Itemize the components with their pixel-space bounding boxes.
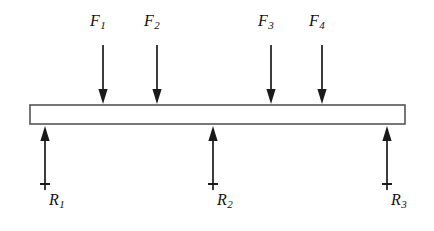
reaction-label-subscript-R3: 3 [401, 198, 407, 210]
reaction-arrow-R2 [208, 126, 218, 190]
reaction-arrow-R1 [40, 126, 50, 190]
beam-body [30, 105, 405, 124]
load-label-base-F2: F [144, 12, 154, 29]
load-arrow-head-F4 [317, 89, 326, 104]
reaction-arrow-group [40, 126, 392, 190]
load-label-base-F3: F [258, 12, 268, 29]
load-label-base-F1: F [90, 12, 100, 29]
reaction-label-R3: R3 [391, 192, 406, 208]
load-label-subscript-F3: 3 [268, 19, 274, 31]
load-label-F1: F1 [90, 13, 105, 29]
load-arrow-head-F3 [266, 89, 275, 104]
reaction-arrow-R3 [382, 126, 392, 190]
reaction-label-base-R2: R [217, 191, 227, 208]
load-label-subscript-F4: 4 [319, 19, 325, 31]
load-arrow-F1 [98, 45, 107, 104]
reaction-label-subscript-R1: 1 [59, 198, 65, 210]
reaction-label-R2: R2 [217, 192, 232, 208]
load-label-F2: F2 [144, 13, 159, 29]
load-label-subscript-F1: 1 [100, 19, 106, 31]
load-arrow-F4 [317, 45, 326, 104]
reaction-label-R1: R1 [49, 192, 64, 208]
load-arrow-F2 [152, 45, 161, 104]
beam-diagram-figure: F1F2F3F4R1R2R3 [0, 0, 434, 231]
reaction-label-subscript-R2: 2 [227, 198, 233, 210]
load-arrow-head-F1 [98, 89, 107, 104]
load-label-F3: F3 [258, 13, 273, 29]
load-label-subscript-F2: 2 [154, 19, 160, 31]
load-label-base-F4: F [309, 12, 319, 29]
load-arrow-group [98, 45, 326, 104]
load-arrow-head-F2 [152, 89, 161, 104]
load-arrow-F3 [266, 45, 275, 104]
load-label-F4: F4 [309, 13, 324, 29]
reaction-label-base-R1: R [49, 191, 59, 208]
reaction-label-base-R3: R [391, 191, 401, 208]
